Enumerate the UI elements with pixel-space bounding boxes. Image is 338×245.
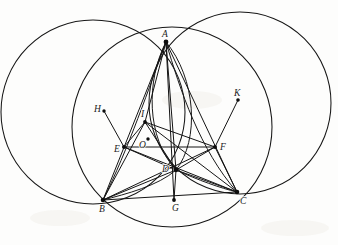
point-marker-C — [235, 190, 240, 195]
segments-group — [103, 42, 238, 200]
cevian-BF — [103, 147, 215, 200]
label-O: O — [139, 140, 146, 150]
label-K: K — [233, 88, 241, 98]
label-G: G — [172, 203, 179, 213]
label-I: I — [140, 109, 145, 119]
side-BC — [103, 192, 237, 200]
side-AB — [103, 42, 166, 200]
point-marker-B — [101, 198, 106, 203]
point-marker-F — [213, 145, 217, 149]
point-marker-A — [164, 40, 169, 45]
label-F: F — [219, 142, 226, 152]
segment-IB — [103, 122, 145, 200]
point-marker-I — [143, 120, 147, 124]
segment-BD — [103, 170, 176, 200]
label-A: A — [161, 29, 168, 39]
geometry-canvas: A B C D E F G H I K O — [0, 0, 338, 245]
segment-KF — [215, 100, 238, 147]
point-marker-G — [172, 198, 176, 202]
geometry-figure: A B C D E F G H I K O — [0, 0, 338, 245]
point-marker-K — [236, 98, 240, 102]
label-C: C — [240, 196, 247, 206]
label-H: H — [93, 104, 102, 114]
segment-AI — [145, 42, 166, 122]
label-B: B — [99, 204, 105, 214]
point-marker-E — [122, 145, 126, 149]
label-D: D — [161, 164, 169, 174]
point-marker-D — [174, 168, 179, 173]
left-circle — [1, 20, 185, 204]
label-E: E — [113, 144, 120, 154]
point-marker-O — [146, 137, 149, 140]
segment-HE — [104, 111, 124, 147]
point-marker-H — [102, 109, 105, 112]
